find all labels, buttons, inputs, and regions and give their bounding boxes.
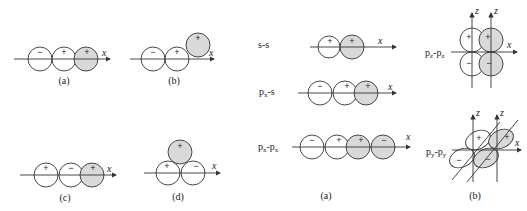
x-axis-label: x: [514, 137, 520, 148]
sign: +: [84, 47, 89, 57]
x-axis-label: x: [101, 47, 107, 58]
x-axis-label: x: [211, 160, 217, 171]
sign: +: [365, 81, 370, 91]
row-label: py-py: [426, 146, 447, 159]
x-axis-label: x: [377, 35, 383, 46]
sign: +: [466, 32, 471, 42]
row-label: pz-pz: [425, 47, 445, 60]
row-s-s: s-s + + x: [258, 35, 396, 59]
sign: +: [344, 81, 349, 91]
sign: −: [68, 163, 73, 173]
row-label: s-s: [258, 39, 269, 50]
z-axis-label: z: [474, 5, 479, 16]
sign: −: [456, 155, 461, 165]
sign: +: [90, 163, 95, 173]
z-axis-label: z: [499, 107, 504, 118]
orbital-overlap-diagram: − + + x (a) − + + x (b) + − + x (c) + − …: [0, 0, 527, 211]
y-axis: [467, 120, 518, 182]
sign: +: [349, 36, 354, 46]
diagram-b: − + + x (b): [130, 33, 214, 87]
row-label: px-px: [258, 141, 279, 154]
sign: −: [317, 81, 322, 91]
x-axis-label: x: [106, 163, 112, 174]
x-axis-label: x: [506, 39, 512, 50]
sign: +: [174, 47, 179, 57]
sign: +: [336, 135, 341, 145]
row-px-s: px-s − + + x: [259, 81, 396, 105]
sign: −: [193, 161, 198, 171]
caption: (b): [469, 190, 481, 202]
caption: (a): [320, 190, 331, 202]
x-axis-label: x: [387, 81, 393, 92]
diagram-pz-pz: pz-pz + + − − x z z: [425, 5, 517, 88]
x-axis-label: x: [208, 47, 214, 58]
z-axis-label: z: [475, 107, 480, 118]
sign: +: [164, 161, 169, 171]
caption: (b): [168, 75, 180, 87]
row-px-px: px-px − + + − x (a): [258, 131, 411, 202]
sign: −: [486, 58, 491, 68]
x-axis-label: x: [405, 131, 411, 142]
sign: +: [504, 132, 509, 142]
sign: −: [309, 135, 314, 145]
row-label: px-s: [259, 86, 275, 99]
sign: −: [37, 47, 42, 57]
sign: +: [195, 33, 200, 43]
sign: +: [177, 141, 182, 151]
sign: +: [61, 47, 66, 57]
sign: +: [43, 163, 48, 173]
diagram-a: − + + x (a): [14, 47, 110, 87]
sign: +: [358, 135, 363, 145]
caption: (d): [172, 191, 184, 203]
sign: −: [466, 58, 471, 68]
sign: −: [150, 47, 155, 57]
z-axis-label: z: [493, 5, 498, 16]
sign: −: [485, 154, 490, 164]
diagram-c: + − + x (c): [20, 163, 116, 204]
sign: +: [327, 36, 332, 46]
caption: (c): [59, 192, 70, 204]
caption: (a): [58, 75, 69, 87]
diagram-py-py: py-py + + − − x z z (b): [426, 107, 521, 202]
sign: +: [476, 133, 481, 143]
sign: −: [381, 135, 386, 145]
sign: +: [485, 32, 490, 42]
diagram-d: + − + x (d): [144, 140, 220, 203]
